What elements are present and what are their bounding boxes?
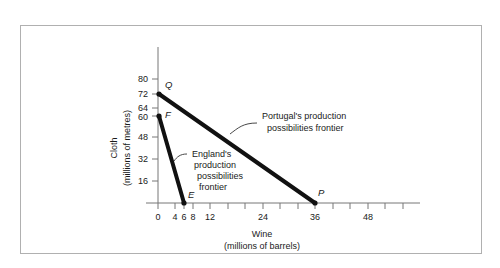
data-point-f <box>156 113 161 118</box>
england-leader-line <box>174 154 187 161</box>
data-point-q <box>156 91 161 96</box>
y-tick-label-48: 48 <box>138 132 148 142</box>
point-label-p: P <box>318 187 325 198</box>
x-axis-title: Wine <box>252 229 273 239</box>
y-tick-label-32: 32 <box>138 154 148 164</box>
x-tick-label-24: 24 <box>258 212 268 222</box>
data-point-p <box>312 200 317 205</box>
england-annotation-line1: England's <box>192 149 232 159</box>
point-label-q: Q <box>165 79 173 90</box>
y-tick-label-80: 80 <box>138 74 148 84</box>
y-tick-label-60: 60 <box>138 112 148 122</box>
figure-container: 80 72 64 60 48 32 16 0 4 6 <box>0 0 500 268</box>
y-axis-units: (millions of metres) <box>122 110 132 186</box>
y-tick-label-16: 16 <box>138 176 148 186</box>
x-tick-label-8: 8 <box>190 212 195 222</box>
portugal-annotation-line2: possibilities frontier <box>267 123 344 133</box>
england-ppf-line <box>159 116 184 203</box>
x-tick-label-36: 36 <box>310 212 320 222</box>
y-tick-label-72: 72 <box>138 89 148 99</box>
y-axis-title: Cloth <box>109 137 119 158</box>
x-axis-units: (millions of barrels) <box>224 241 300 251</box>
x-tick-label-6: 6 <box>181 212 186 222</box>
portugal-annotation-line1: Portugal's production <box>262 111 346 121</box>
point-label-e: E <box>188 189 195 200</box>
x-tick-label-12: 12 <box>205 212 215 222</box>
chart-svg: 80 72 64 60 48 32 16 0 4 6 <box>0 0 500 268</box>
x-axis-ticks <box>158 203 403 209</box>
point-label-f: F <box>165 109 172 120</box>
x-tick-label-4: 4 <box>172 212 177 222</box>
england-annotation-line4: frontier <box>199 182 227 192</box>
england-annotation-line2: production <box>194 160 236 170</box>
x-tick-label-0: 0 <box>155 212 160 222</box>
portugal-leader-line <box>230 123 257 134</box>
x-tick-label-48: 48 <box>363 212 373 222</box>
data-point-e <box>181 200 186 205</box>
england-annotation-line3: possibilities <box>197 171 244 181</box>
